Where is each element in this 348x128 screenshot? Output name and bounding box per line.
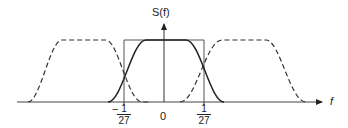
y-axis-label: S(f): [152, 6, 170, 18]
tick-right-label: 1 27: [197, 104, 211, 126]
spectrum-diagram: [0, 0, 348, 128]
x-axis-label: f: [330, 95, 333, 107]
raised-cosine-main: [108, 40, 224, 102]
tick-left-label: 1 27: [117, 104, 131, 126]
tick-center-label: 0: [160, 110, 166, 122]
shifted-spectrum-right: [180, 40, 306, 102]
shifted-spectrum-left: [28, 40, 150, 102]
